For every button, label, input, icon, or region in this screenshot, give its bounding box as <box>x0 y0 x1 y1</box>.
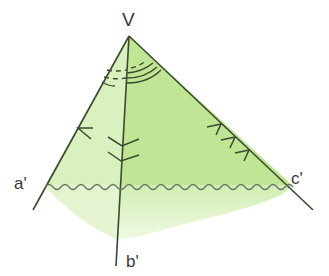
vertex-label: V <box>122 10 135 29</box>
edge-label-b: b' <box>126 253 139 270</box>
face-bc <box>120 36 292 185</box>
edge-label-a: a' <box>14 175 27 192</box>
edge-label-c: c' <box>291 170 303 187</box>
faded-lower-left <box>45 185 120 240</box>
trihedral-angle-diagram <box>0 0 329 276</box>
